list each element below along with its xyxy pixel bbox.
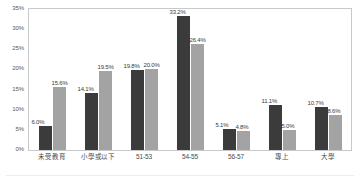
bar-slot: 4.8%: [237, 9, 250, 150]
bar-group: 10.7%8.6%: [305, 9, 351, 150]
bar[interactable]: [223, 129, 236, 150]
bar-group-bars: 11.1%5.0%: [259, 9, 305, 150]
bar-slot: 26.4%: [191, 9, 204, 150]
bar-group-bars: 19.8%20.0%: [121, 9, 167, 150]
bar[interactable]: [85, 93, 98, 150]
bar-value-label: 10.7%: [308, 100, 324, 106]
bar-group: 33.2%26.4%: [167, 9, 213, 150]
bar-group-bars: 5.1%4.8%: [213, 9, 259, 150]
bar[interactable]: [53, 87, 66, 150]
bar-value-label: 5.1%: [216, 122, 229, 128]
bar[interactable]: [39, 126, 52, 150]
bar-slot: 15.6%: [53, 9, 66, 150]
bar-slot: 19.5%: [99, 9, 112, 150]
y-axis-tick-label: 30%: [12, 25, 24, 31]
bar-value-label: 4.8%: [236, 124, 249, 130]
bar[interactable]: [99, 71, 112, 150]
bar-slot: 5.1%: [223, 9, 236, 150]
bar[interactable]: [145, 69, 158, 150]
bar-value-label: 33.2%: [170, 9, 186, 15]
bar-value-label: 19.8%: [124, 63, 140, 69]
bar-group: 6.0%15.6%: [29, 9, 75, 150]
bar-group-bars: 14.1%19.5%: [75, 9, 121, 150]
x-axis-category-label: 56-57: [228, 153, 244, 161]
y-axis-tick-label: 25%: [12, 45, 24, 51]
plot-area: 6.0%15.6%14.1%19.5%19.8%20.0%33.2%26.4%5…: [29, 9, 351, 150]
bar[interactable]: [269, 105, 282, 150]
bar-slot: 19.8%: [131, 9, 144, 150]
bar-value-label: 15.6%: [52, 80, 68, 86]
y-axis-tick-label: 20%: [12, 65, 24, 71]
bar-value-label: 26.4%: [190, 37, 206, 43]
bar-group: 14.1%19.5%: [75, 9, 121, 150]
bar[interactable]: [237, 131, 250, 150]
x-axis: 未受教育小學或以下51-5354-5556-57專上大學: [29, 153, 351, 173]
bar-group: 19.8%20.0%: [121, 9, 167, 150]
bar-value-label: 6.0%: [32, 119, 45, 125]
bar-value-label: 14.1%: [78, 86, 94, 92]
bar[interactable]: [191, 44, 204, 150]
x-axis-category-label: 大學: [321, 153, 335, 161]
y-axis: 0%5%10%15%20%25%30%35%: [0, 8, 26, 151]
bar-value-label: 19.5%: [98, 64, 114, 70]
bar-value-label: 11.1%: [262, 98, 278, 104]
bar-slot: 11.1%: [269, 9, 282, 150]
bar[interactable]: [131, 70, 144, 150]
y-axis-tick-label: 35%: [12, 5, 24, 11]
x-axis-category-label: 未受教育: [38, 153, 66, 161]
bar[interactable]: [177, 16, 190, 150]
bar[interactable]: [315, 107, 328, 150]
bar-slot: 8.6%: [329, 9, 342, 150]
bar-slot: 5.0%: [283, 9, 296, 150]
bar-group: 5.1%4.8%: [213, 9, 259, 150]
bar-slot: 14.1%: [85, 9, 98, 150]
x-axis-category-label: 專上: [275, 153, 289, 161]
x-axis-category-label: 54-55: [182, 153, 198, 161]
bar-group: 11.1%5.0%: [259, 9, 305, 150]
bar-slot: 33.2%: [177, 9, 190, 150]
bar-slot: 6.0%: [39, 9, 52, 150]
bar-chart: 0%5%10%15%20%25%30%35% 6.0%15.6%14.1%19.…: [0, 0, 360, 180]
x-axis-category-label: 小學或以下: [81, 153, 116, 161]
bar[interactable]: [283, 130, 296, 150]
bar[interactable]: [329, 115, 342, 150]
y-axis-tick-label: 5%: [16, 126, 24, 132]
bottom-divider: [6, 175, 354, 176]
x-axis-category-label: 51-53: [136, 153, 152, 161]
y-axis-tick-label: 0%: [16, 146, 24, 152]
bar-group-bars: 33.2%26.4%: [167, 9, 213, 150]
bar-value-label: 20.0%: [144, 62, 160, 68]
y-axis-tick-label: 10%: [12, 106, 24, 112]
bar-slot: 20.0%: [145, 9, 158, 150]
bar-value-label: 8.6%: [328, 108, 341, 114]
y-axis-tick-label: 15%: [12, 86, 24, 92]
bar-value-label: 5.0%: [282, 123, 295, 129]
bar-slot: 10.7%: [315, 9, 328, 150]
bar-group-bars: 10.7%8.6%: [305, 9, 351, 150]
bar-group-bars: 6.0%15.6%: [29, 9, 75, 150]
